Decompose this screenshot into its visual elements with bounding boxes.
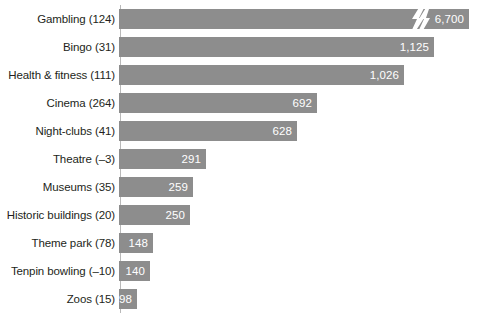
bar-track: 628: [118, 117, 478, 145]
bar-row: Tenpin bowling (–10)140: [0, 257, 478, 285]
bar-chart: Gambling (124)6,700Bingo (31)1,125Health…: [0, 0, 478, 333]
category-label: Theatre (–3): [0, 153, 118, 165]
bar-row: Theatre (–3)291: [0, 145, 478, 173]
category-label: Night-clubs (41): [0, 125, 118, 137]
bar-value-label: 98: [119, 293, 137, 305]
bar-rows-container: Gambling (124)6,700Bingo (31)1,125Health…: [0, 5, 478, 313]
bar-row: Gambling (124)6,700: [0, 5, 478, 33]
bar-track: 1,026: [118, 61, 478, 89]
bar[interactable]: 692: [119, 93, 317, 113]
bar-value-label: 1,125: [400, 41, 434, 53]
bar-value-label: 1,026: [370, 69, 404, 81]
bar-row: Bingo (31)1,125: [0, 33, 478, 61]
category-label: Bingo (31): [0, 41, 118, 53]
bar-track: 291: [118, 145, 478, 173]
bar[interactable]: 291: [119, 149, 206, 169]
bar[interactable]: 1,125: [119, 37, 434, 57]
bar[interactable]: 140: [119, 261, 150, 281]
bar-value-label: 628: [273, 125, 298, 137]
bar-track: 98: [118, 285, 478, 313]
bar-track: 250: [118, 201, 478, 229]
bar-track: 140: [118, 257, 478, 285]
category-label: Zoos (15): [0, 293, 118, 305]
bar-track: 692: [118, 89, 478, 117]
bar-row: Theme park (78)148: [0, 229, 478, 257]
category-label: Theme park (78): [0, 237, 118, 249]
bar-track: 1,125: [118, 33, 478, 61]
bar-row: Zoos (15)98: [0, 285, 478, 313]
bar[interactable]: 148: [119, 233, 153, 253]
category-label: Health & fitness (111): [0, 69, 118, 81]
bar-value-label: 6,700: [435, 13, 469, 25]
category-label: Tenpin bowling (–10): [0, 265, 118, 277]
bar-value-label: 148: [129, 237, 154, 249]
category-label: Museums (35): [0, 181, 118, 193]
bar-row: Health & fitness (111)1,026: [0, 61, 478, 89]
bar-row: Museums (35)259: [0, 173, 478, 201]
bar-row: Night-clubs (41)628: [0, 117, 478, 145]
bar-row: Historic buildings (20)250: [0, 201, 478, 229]
bar-value-label: 140: [126, 265, 151, 277]
bar[interactable]: 259: [119, 177, 193, 197]
bar-track: 148: [118, 229, 478, 257]
bar-track: 259: [118, 173, 478, 201]
category-label: Cinema (264): [0, 97, 118, 109]
bar[interactable]: 6,700: [119, 9, 469, 29]
bar[interactable]: 98: [119, 289, 137, 309]
category-label: Gambling (124): [0, 13, 118, 25]
bar-value-label: 250: [166, 209, 191, 221]
bar-value-label: 692: [293, 97, 318, 109]
bar[interactable]: 628: [119, 121, 297, 141]
bar[interactable]: 250: [119, 205, 190, 225]
bar-row: Cinema (264)692: [0, 89, 478, 117]
bar[interactable]: 1,026: [119, 65, 404, 85]
bar-value-label: 259: [169, 181, 194, 193]
bar-value-label: 291: [182, 153, 207, 165]
category-label: Historic buildings (20): [0, 209, 118, 221]
bar-track: 6,700: [118, 5, 478, 33]
